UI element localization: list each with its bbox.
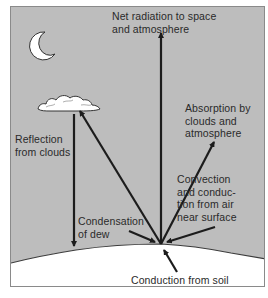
label-absorption: Absorption by clouds and atmosphere [185,102,251,140]
diagram-frame: Net radiation to space and atmosphere Ab… [10,6,265,287]
label-conduction-soil: Conduction from soil [131,274,229,287]
label-condensation: Condensation of dew [78,215,144,240]
label-net-radiation: Net radiation to space and atmosphere [112,10,216,35]
label-reflection: Reflection from clouds [15,133,70,158]
label-convection: Convection and conduc- tion from air nea… [177,173,237,223]
